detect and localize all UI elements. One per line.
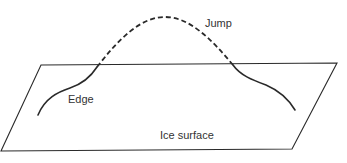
edge-curve-left	[38, 67, 97, 115]
ice-surface-label: Ice surface	[160, 129, 214, 141]
skating-jump-diagram: Jump Edge Ice surface	[0, 0, 347, 163]
edge-label: Edge	[68, 93, 94, 105]
edge-curve-right	[233, 65, 295, 110]
jump-label: Jump	[205, 17, 232, 29]
